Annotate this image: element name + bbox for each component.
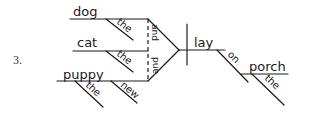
object-modifier-word: the [263,72,283,91]
subject-word-puppy: puppy [63,67,104,82]
preposition-word: on [226,49,243,66]
compound-connector: and and [148,19,179,81]
item-number: 3. [13,53,22,67]
conjunction-word-2: and [150,57,160,74]
predicate: lay [179,24,225,65]
subject-puppy: puppy the new [57,67,148,107]
conjunction-word-1: and [150,24,160,41]
modifier-word-puppy-the: the [84,79,104,98]
prepositional-phrase: on porch the [217,49,288,105]
subject-word-cat: cat [77,35,97,50]
subject-word-dog: dog [73,4,97,19]
sentence-diagram: 3. dog the cat the puppy the new and and… [0,0,332,121]
object-word: porch [249,59,286,74]
verb-word: lay [194,35,214,50]
